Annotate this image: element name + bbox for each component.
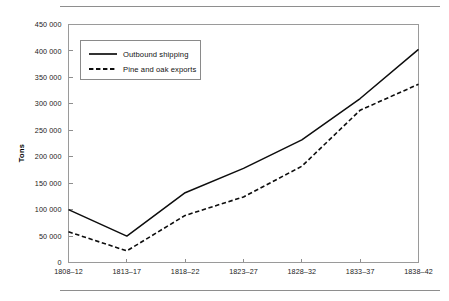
y-axis-tick-label: 150 000 [35, 179, 62, 188]
x-axis-tick-label: 1818–22 [171, 267, 200, 276]
legend-label-pine-and-oak-exports: Pine and oak exports [123, 65, 196, 74]
legend-label-outbound-shipping: Outbound shipping [123, 50, 188, 59]
y-axis-tick-group [69, 51, 73, 236]
x-axis-tick-label: 1813–17 [112, 267, 141, 276]
y-axis-tick-label: 400 000 [35, 47, 62, 56]
y-axis-tick-label: 200 000 [35, 152, 62, 161]
line-chart: 050 000100 000150 000200 000250 000300 0… [0, 0, 449, 301]
y-axis-tick-label: 350 000 [35, 73, 62, 82]
figure-container: 050 000100 000150 000200 000250 000300 0… [0, 0, 449, 301]
chart-legend: Outbound shipping Pine and oak exports [81, 41, 201, 80]
y-axis-tick-label: 100 000 [35, 205, 62, 214]
x-axis-tick-label: 1808–12 [54, 267, 83, 276]
y-axis-tick-label: 50 000 [39, 232, 62, 241]
x-axis-tick-label: 1823–27 [229, 267, 258, 276]
y-axis-label-group: 050 000100 000150 000200 000250 000300 0… [35, 20, 62, 267]
y-axis-tick-label: 250 000 [35, 126, 62, 135]
y-axis-tick-label: 300 000 [35, 99, 62, 108]
x-axis-tick-group [127, 259, 360, 263]
x-axis-tick-label: 1833–37 [346, 267, 375, 276]
y-axis-title: Tons [17, 144, 26, 162]
x-axis-tick-label: 1828–32 [287, 267, 316, 276]
y-axis-tick-label: 450 000 [35, 20, 62, 29]
x-axis-label-group: 1808–121813–171818–221823–271828–321833–… [54, 267, 433, 276]
legend-box [81, 41, 201, 80]
x-axis-tick-label: 1838–42 [404, 267, 433, 276]
bottom-divider-rule [60, 290, 440, 291]
